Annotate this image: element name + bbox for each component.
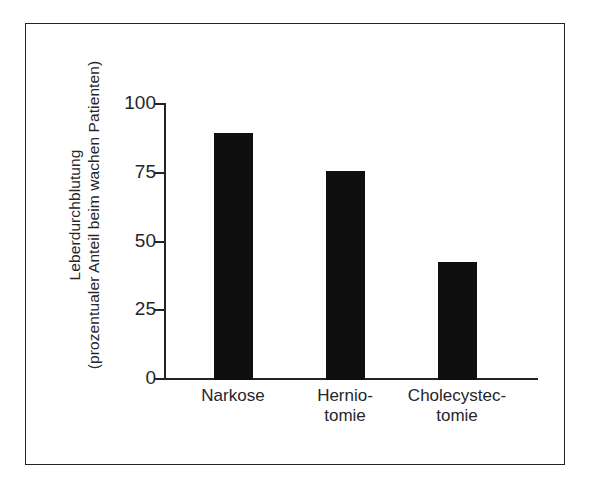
x-axis-label-line: Hernio- (292, 386, 398, 406)
x-axis-label: Cholecystec-tomie (404, 386, 510, 425)
bar-group: Narkose (180, 103, 286, 380)
x-axis-label-line: tomie (292, 406, 398, 426)
y-tick-label: 0 (145, 367, 156, 389)
x-axis-label-line: tomie (404, 406, 510, 426)
y-tick-label: 50 (135, 230, 156, 252)
y-axis-title-line-1: Leberdurchblutung (66, 150, 85, 281)
bar-cholecystec-tomie (438, 262, 477, 380)
bar-narkose (214, 133, 253, 381)
plot-area: 0255075100 NarkoseHernio-tomieCholecyste… (164, 103, 544, 383)
y-tick-label: 100 (124, 92, 156, 114)
y-tick-label: 25 (135, 298, 156, 320)
x-axis-label-line: Narkose (180, 386, 286, 406)
bar-hernio-tomie (326, 171, 365, 380)
x-axis-label: Hernio-tomie (292, 386, 398, 425)
x-axis-label: Narkose (180, 386, 286, 406)
y-axis-title: Leberdurchblutung (prozentualer Anteil b… (57, 30, 113, 400)
x-axis-label-line: Cholecystec- (404, 386, 510, 406)
bars-layer: NarkoseHernio-tomieCholecystec-tomie (164, 103, 544, 380)
y-axis-title-line-2: (prozentualer Anteil beim wachen Patient… (85, 61, 104, 369)
figure-frame: Leberdurchblutung (prozentualer Anteil b… (25, 23, 565, 465)
bar-group: Cholecystec-tomie (404, 103, 510, 380)
y-tick-label: 75 (135, 161, 156, 183)
bar-group: Hernio-tomie (292, 103, 398, 380)
